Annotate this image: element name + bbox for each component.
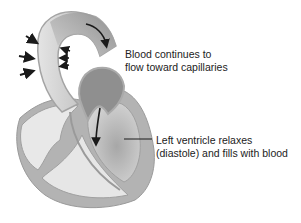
- heart-diagram: [0, 0, 301, 223]
- aortic-wall-pressure-arrows-icon: [19, 36, 34, 75]
- ventricle-diastole-label: Left ventricle relaxes (diastole) and fi…: [156, 134, 288, 160]
- aorta-flow-label: Blood continues to flow toward capillari…: [125, 48, 228, 74]
- aorta-flow-label-line2: flow toward capillaries: [125, 61, 228, 74]
- aorta-arch: [50, 13, 116, 56]
- aorta-flow-label-line1: Blood continues to: [125, 48, 228, 61]
- ventricle-label-line1: Left ventricle relaxes: [156, 134, 288, 147]
- aortic-inner-wall-arrows-icon: [63, 49, 70, 66]
- ventricle-label-line2: (diastole) and fills with blood: [156, 147, 288, 160]
